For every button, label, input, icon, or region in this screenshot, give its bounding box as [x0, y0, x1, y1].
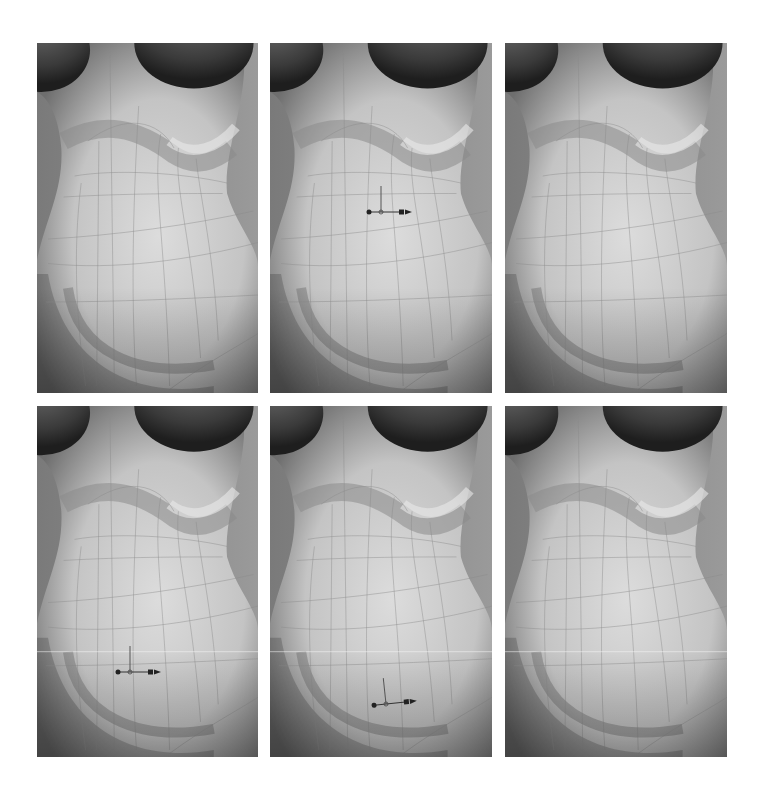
viewport-panel-1: [37, 43, 258, 393]
torso-render: [37, 43, 258, 393]
torso-render: [270, 43, 492, 393]
torso-render: [270, 406, 492, 757]
viewport-panel-2: [270, 43, 492, 393]
torso-render: [37, 406, 258, 757]
torso-render: [505, 43, 727, 393]
torso-render: [505, 406, 727, 757]
viewport-panel-4: [37, 406, 258, 757]
viewport-panel-5: [270, 406, 492, 757]
viewport-panel-6: [505, 406, 727, 757]
viewport-panel-3: [505, 43, 727, 393]
